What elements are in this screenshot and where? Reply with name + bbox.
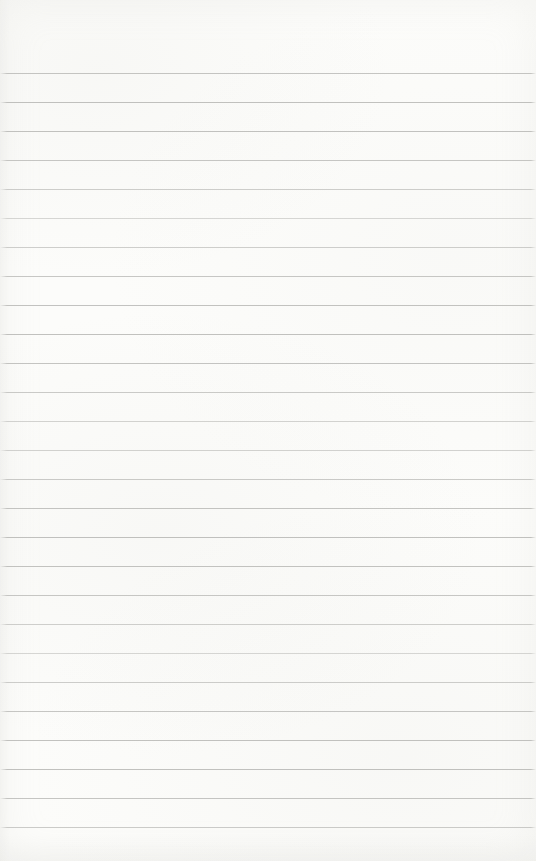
- ruled-line: [0, 334, 536, 335]
- ruled-line: [0, 624, 536, 625]
- ruled-line: [0, 711, 536, 712]
- ruled-line: [0, 682, 536, 683]
- ruled-line: [0, 769, 536, 770]
- ruled-line: [0, 305, 536, 306]
- ruled-line: [0, 73, 536, 74]
- ruled-line: [0, 798, 536, 799]
- ruled-line: [0, 102, 536, 103]
- ruled-line: [0, 160, 536, 161]
- ruled-line: [0, 740, 536, 741]
- ruled-line: [0, 566, 536, 567]
- ruled-line: [0, 508, 536, 509]
- ruled-line: [0, 218, 536, 219]
- notebook-page: [0, 0, 536, 861]
- ruled-line: [0, 363, 536, 364]
- ruled-line: [0, 595, 536, 596]
- ruled-line: [0, 537, 536, 538]
- ruled-line: [0, 276, 536, 277]
- ruled-line: [0, 450, 536, 451]
- ruled-line: [0, 189, 536, 190]
- ruled-line: [0, 827, 536, 828]
- ruled-line: [0, 392, 536, 393]
- ruled-line: [0, 247, 536, 248]
- ruled-line: [0, 131, 536, 132]
- ruled-line: [0, 421, 536, 422]
- ruled-line: [0, 479, 536, 480]
- ruled-line: [0, 653, 536, 654]
